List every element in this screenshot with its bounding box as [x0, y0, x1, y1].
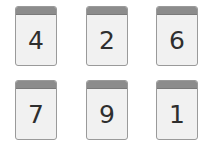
card-digit: 2	[87, 15, 127, 65]
card-digit: 9	[87, 89, 127, 139]
number-card-2[interactable]: 2	[86, 6, 128, 66]
card-header	[16, 81, 56, 89]
card-header	[157, 7, 197, 15]
number-card-6[interactable]: 1	[156, 80, 198, 140]
number-card-5[interactable]: 9	[86, 80, 128, 140]
card-digit: 7	[16, 89, 56, 139]
number-card-3[interactable]: 6	[156, 6, 198, 66]
number-card-4[interactable]: 7	[15, 80, 57, 140]
number-card-1[interactable]: 4	[15, 6, 57, 66]
card-digit: 1	[157, 89, 197, 139]
card-header	[157, 81, 197, 89]
card-digit: 6	[157, 15, 197, 65]
card-header	[87, 7, 127, 15]
card-digit: 4	[16, 15, 56, 65]
card-header	[16, 7, 56, 15]
card-header	[87, 81, 127, 89]
